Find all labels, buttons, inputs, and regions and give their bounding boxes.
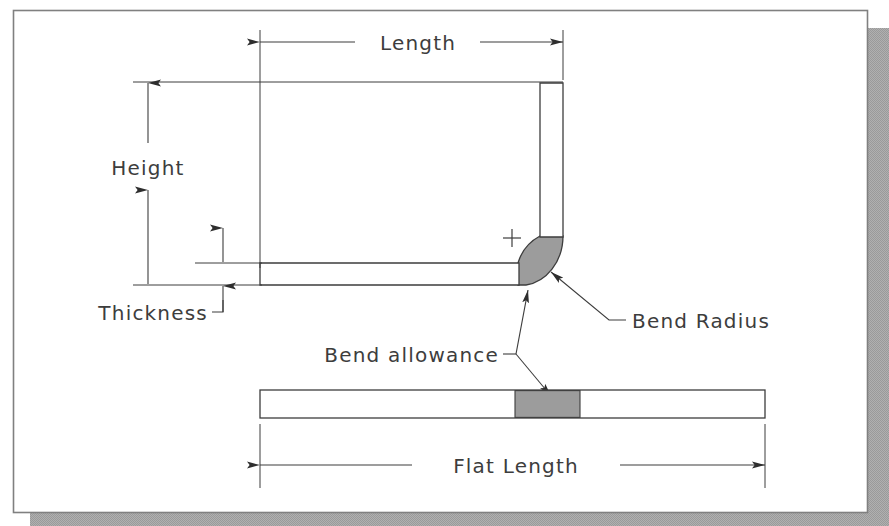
height-label: Height — [111, 156, 184, 180]
bend-radius-label: Bend Radius — [632, 309, 770, 333]
flat-length-label: Flat Length — [453, 454, 579, 478]
diagram-page: Length Height Thickness — [0, 0, 889, 526]
flat-strip-group — [260, 390, 765, 418]
horizontal-arm — [260, 263, 519, 285]
technical-drawing-canvas: Length Height Thickness — [0, 0, 889, 526]
vertical-arm — [540, 83, 563, 237]
length-label: Length — [380, 31, 456, 55]
bend-allowance-label: Bend allowance — [324, 343, 499, 367]
flat-strip — [260, 390, 765, 418]
drawing-sheet-border — [14, 11, 868, 513]
flat-strip-bend-segment — [515, 391, 580, 418]
thickness-label: Thickness — [97, 301, 208, 325]
